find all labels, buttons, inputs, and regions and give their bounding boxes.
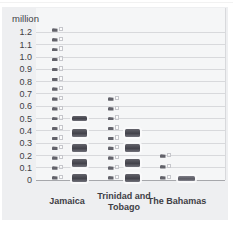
light-pictogram-icon [52, 76, 63, 82]
y-gridline [36, 32, 225, 33]
plot-right-border [225, 8, 226, 180]
y-tick-label: 1.0 [6, 52, 32, 62]
y-gridline [36, 155, 225, 156]
light-pictogram-icon [52, 165, 63, 171]
light-pictogram-icon [108, 106, 119, 112]
y-axis-unit-label: million [12, 13, 39, 24]
light-pictogram-icon [52, 175, 63, 181]
dark-pictogram-icon [72, 116, 87, 121]
y-tick-label: 0.4 [6, 126, 32, 136]
light-pictogram-icon [52, 96, 63, 102]
light-pictogram-icon [108, 115, 119, 121]
light-pictogram-icon [160, 153, 171, 159]
y-tick-label: 0.9 [6, 64, 32, 74]
light-pictogram-icon [108, 175, 119, 181]
dark-pictogram-icon [125, 129, 140, 137]
light-pictogram-icon [52, 37, 63, 43]
dark-pictogram-icon [72, 144, 87, 152]
dark-pictogram-icon [178, 176, 195, 181]
y-gridline [36, 93, 225, 94]
category-label: The Bahamas [142, 189, 212, 214]
light-pictogram-icon [108, 145, 119, 151]
y-tick-label: 0.3 [6, 138, 32, 148]
y-tick-label: 0.2 [6, 151, 32, 161]
y-tick-label: 0.7 [6, 89, 32, 99]
light-pictogram-icon [108, 165, 119, 171]
light-pictogram-icon [108, 155, 119, 161]
y-gridline [36, 167, 225, 168]
y-tick-label: 0.6 [6, 101, 32, 111]
dark-pictogram-icon [72, 129, 87, 137]
light-pictogram-icon [160, 175, 171, 181]
category-label: Jamaica [37, 189, 97, 214]
light-pictogram-icon [52, 86, 63, 92]
light-pictogram-icon [52, 115, 63, 121]
light-pictogram-icon [52, 106, 63, 112]
y-gridline [36, 69, 225, 70]
y-tick-label: 1.2 [6, 27, 32, 37]
y-tick-label: 0.1 [6, 163, 32, 173]
light-pictogram-icon [108, 135, 119, 141]
y-gridline [36, 44, 225, 45]
pictogram-bar-chart: million 1.21.11.00.90.80.70.60.50.40.30.… [0, 0, 233, 226]
dark-pictogram-icon [125, 174, 140, 182]
y-tick-label: 0 [6, 175, 32, 185]
y-gridline [36, 106, 225, 107]
light-pictogram-icon [160, 164, 171, 170]
light-pictogram-icon [52, 155, 63, 161]
dark-pictogram-icon [72, 159, 87, 167]
y-gridline [36, 81, 225, 82]
y-gridline [36, 57, 225, 58]
dark-pictogram-icon [125, 159, 140, 167]
light-pictogram-icon [52, 66, 63, 72]
light-pictogram-icon [52, 145, 63, 151]
light-pictogram-icon [52, 125, 63, 131]
y-tick-label: 0.5 [6, 114, 32, 124]
top-divider [0, 2, 233, 3]
dark-pictogram-icon [125, 144, 140, 152]
y-tick-label: 1.1 [6, 40, 32, 50]
dark-pictogram-icon [72, 174, 87, 182]
light-pictogram-icon [52, 27, 63, 33]
light-pictogram-icon [108, 125, 119, 131]
y-gridline [36, 118, 225, 119]
light-pictogram-icon [52, 56, 63, 62]
light-pictogram-icon [108, 96, 119, 102]
light-pictogram-icon [52, 46, 63, 52]
y-tick-label: 0.8 [6, 77, 32, 87]
light-pictogram-icon [52, 135, 63, 141]
